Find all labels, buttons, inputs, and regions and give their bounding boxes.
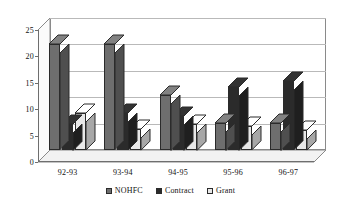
bars-layer (38, 18, 326, 162)
y-tick-label: 20 (26, 52, 34, 61)
bar-side-face (86, 113, 95, 150)
bar-side-face (197, 124, 206, 150)
bar (270, 123, 281, 150)
legend-label: NOHFC (115, 186, 143, 195)
bar-side-face (294, 81, 303, 150)
legend-swatch-icon (207, 188, 213, 194)
bar-top-face (104, 35, 115, 44)
legend-label: Contract (165, 186, 194, 195)
bar-side-face (171, 95, 180, 150)
x-axis-label: 96-97 (279, 168, 299, 177)
y-tick-label: 5 (30, 131, 34, 140)
bar (104, 44, 115, 150)
bar-top-face (215, 114, 226, 123)
bar-top-face (283, 72, 294, 81)
y-tick-label: 10 (26, 105, 34, 114)
bar-chart: 0510152025 92-9393-9494-9595-9696-97 NOH… (0, 0, 341, 213)
bar-side-face (226, 123, 235, 150)
bar-side-face (239, 87, 248, 150)
y-tick-mark (35, 162, 38, 163)
bar-top-face (160, 86, 171, 95)
bar-side-face (128, 113, 137, 150)
bar-front-face (104, 44, 115, 150)
bar-top-face (270, 114, 281, 123)
bar (49, 44, 60, 150)
x-axis-label: 95-96 (223, 168, 243, 177)
bar-side-face (184, 116, 193, 150)
y-tick-label: 25 (26, 26, 34, 35)
bar-top-face (75, 104, 86, 113)
bar-top-face (49, 35, 60, 44)
bar-front-face (160, 95, 171, 150)
chart-legend: NOHFCContractGrant (0, 186, 341, 195)
bar-side-face (307, 130, 316, 150)
plot-area: 0510152025 92-9393-9494-9595-9696-97 (38, 18, 326, 162)
y-tick-label: 0 (30, 158, 34, 167)
bar-front-face (270, 123, 281, 150)
legend-swatch-icon (106, 188, 112, 194)
bar (215, 123, 226, 150)
bar-side-face (281, 123, 290, 150)
bar-side-face (73, 124, 82, 150)
legend-item[interactable]: NOHFC (106, 186, 143, 195)
x-axis-label: 92-93 (58, 168, 78, 177)
bar-side-face (115, 44, 124, 150)
legend-swatch-icon (156, 188, 162, 194)
bar-side-face (60, 44, 69, 150)
bar-front-face (49, 44, 60, 150)
bar-top-face (228, 78, 239, 87)
x-axis-label: 93-94 (113, 168, 133, 177)
legend-label: Grant (216, 186, 235, 195)
bar-side-face (141, 129, 150, 150)
x-axis-label: 94-95 (168, 168, 188, 177)
bar (160, 95, 171, 150)
legend-item[interactable]: Grant (207, 186, 235, 195)
bar-side-face (252, 126, 261, 150)
bar-front-face (215, 123, 226, 150)
y-tick-label: 15 (26, 78, 34, 87)
legend-item[interactable]: Contract (156, 186, 194, 195)
